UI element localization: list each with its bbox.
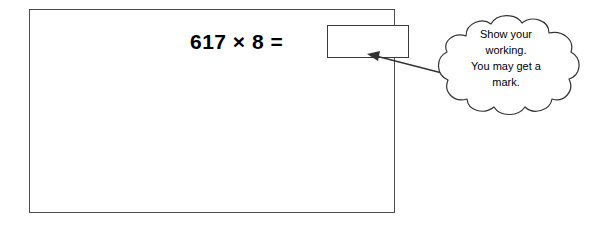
equation-text: 617 × 8 =: [190, 31, 283, 52]
equation-row: 617 × 8 =: [190, 23, 283, 59]
callout-text: Show your working. You may get a mark.: [450, 26, 562, 90]
callout-bubble: Show your working. You may get a mark.: [428, 12, 584, 120]
callout-line-4: mark.: [450, 74, 562, 90]
callout-line-2: working.: [450, 42, 562, 58]
callout-line-3: You may get a: [450, 58, 562, 74]
working-out-area[interactable]: 617 × 8 =: [29, 9, 395, 213]
callout-line-1: Show your: [450, 26, 562, 42]
question-page: 617 × 8 = Show your working. You may get…: [0, 0, 591, 227]
